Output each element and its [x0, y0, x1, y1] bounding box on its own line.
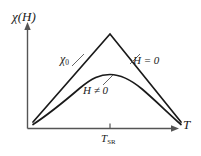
tick-label-subscript: SR: [107, 138, 115, 145]
x-axis-label: T: [183, 118, 190, 131]
chi-zero-subscript: 0: [65, 58, 69, 67]
y-axis-label-arg: (H): [18, 9, 36, 24]
curve-h-not-zero: [33, 75, 181, 125]
x-axis: [28, 125, 180, 131]
x-axis-tick-label: TSR: [101, 133, 115, 145]
h-not-equal-zero-annotation: H ≠ 0: [83, 85, 108, 96]
chi-zero-annotation: χ0: [60, 53, 69, 66]
chi-zero-leader-line: [72, 54, 84, 66]
susceptibility-vs-temperature-figure: χ(H) T χ0 H = 0 H ≠ 0 TSR: [0, 0, 201, 156]
y-axis: [24, 22, 30, 129]
y-axis-label: χ(H): [12, 10, 36, 23]
h-equals-zero-annotation: H = 0: [133, 55, 159, 66]
